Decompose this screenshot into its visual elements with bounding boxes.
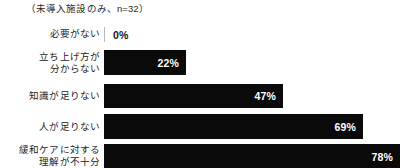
bar-value-label: 69%: [334, 121, 356, 133]
bar: 22%: [104, 50, 186, 75]
bar-row: 緩和ケアに対する 理解が不十分 78%: [0, 144, 410, 168]
bar-value-label: 47%: [254, 90, 276, 102]
category-label: 緩和ケアに対する 理解が不十分: [0, 144, 100, 167]
horizontal-bar-chart: （未導入施設のみ、n=32） 必要がない 0% 立ち上げ方が 分からない 22%…: [0, 0, 410, 168]
chart-caption: （未導入施設のみ、n=32）: [26, 3, 149, 15]
category-label: 必要がない: [0, 28, 100, 40]
bar-row: 立ち上げ方が 分からない 22%: [0, 50, 410, 75]
category-label: 人が足りない: [0, 121, 100, 133]
bar-track: 69%: [104, 114, 410, 139]
bar-row: 必要がない 0%: [0, 26, 410, 43]
bar-track: 22%: [104, 50, 410, 75]
bar-value-label: 22%: [157, 57, 179, 69]
bar: 69%: [104, 114, 363, 139]
category-label: 立ち上げ方が 分からない: [0, 51, 100, 74]
bar-value-label: 78%: [371, 151, 393, 163]
axis-zero-tick: [104, 27, 105, 42]
bar-row: 人が足りない 69%: [0, 114, 410, 139]
bar: 47%: [104, 84, 283, 108]
plot-area: 必要がない 0% 立ち上げ方が 分からない 22% 知識が足りない 47%: [0, 22, 410, 168]
category-label: 知識が足りない: [0, 90, 100, 102]
bar-track: 47%: [104, 84, 410, 108]
bar-track: 78%: [104, 144, 410, 168]
bar: 78%: [104, 144, 400, 168]
bar-row: 知識が足りない 47%: [0, 84, 410, 108]
bar-value-label: 0%: [113, 29, 129, 41]
